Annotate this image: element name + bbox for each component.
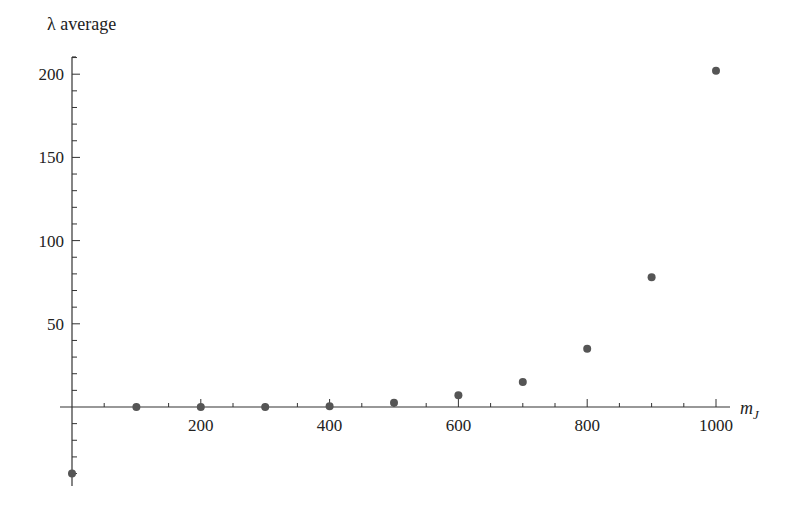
y-tick-label: 150 — [39, 148, 65, 167]
x-tick-label: 600 — [446, 416, 472, 435]
x-tick-label: 1000 — [699, 416, 733, 435]
data-point — [712, 67, 720, 75]
data-point — [326, 402, 334, 410]
data-point — [197, 403, 205, 411]
data-point — [454, 391, 462, 399]
data-point — [132, 403, 140, 411]
data-point — [68, 470, 76, 478]
data-point — [390, 399, 398, 407]
x-tick-label: 400 — [317, 416, 343, 435]
y-axis-title: λ average — [47, 14, 116, 34]
data-point — [648, 273, 656, 281]
data-point — [261, 403, 269, 411]
y-tick-label: 100 — [39, 232, 65, 251]
data-point — [519, 378, 527, 386]
x-axis-title: mJ — [740, 398, 760, 422]
axes: 200400600800100050100150200 — [39, 57, 734, 486]
data-points — [68, 67, 720, 478]
y-tick-label: 200 — [39, 65, 65, 84]
y-tick-label: 50 — [47, 315, 64, 334]
x-tick-label: 200 — [188, 416, 214, 435]
data-point — [583, 345, 591, 353]
x-tick-label: 800 — [574, 416, 600, 435]
scatter-chart: 200400600800100050100150200 λ average mJ — [0, 0, 792, 512]
